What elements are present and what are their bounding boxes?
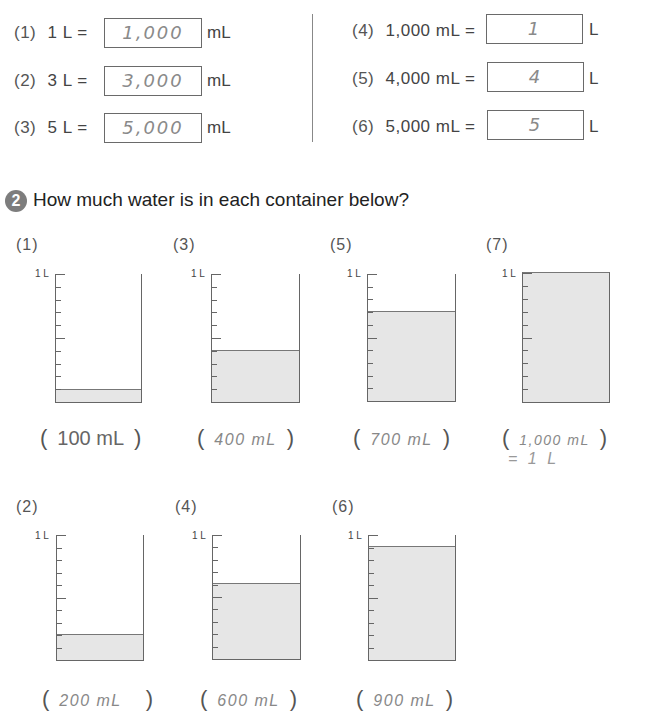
- scale-tick: [368, 287, 373, 288]
- scale-tick: [56, 312, 61, 313]
- scale-tick: [523, 389, 528, 390]
- scale-tick: [523, 325, 528, 326]
- scale-tick: [368, 388, 373, 389]
- answer-1[interactable]: (100 mL): [40, 425, 141, 451]
- scale-tick: [212, 287, 217, 288]
- conversion-item-1: (1) 1 L =: [14, 23, 88, 43]
- scale-tick: [57, 648, 62, 649]
- answer-box-5[interactable]: 4: [487, 62, 584, 92]
- answer-6[interactable]: (900 mL): [356, 686, 453, 712]
- item-number: (6): [352, 117, 374, 136]
- scale-tick: [56, 389, 61, 390]
- conversion-item-2: (2) 3 L =: [14, 71, 88, 91]
- scale-tick: [213, 597, 222, 598]
- unit-label: L: [589, 117, 598, 137]
- equation-lhs: 1,000 mL =: [386, 21, 476, 40]
- container-label: (7): [486, 236, 509, 254]
- item-number: (5): [352, 69, 374, 88]
- beaker-6: [368, 535, 456, 661]
- question-heading: How much water is in each container belo…: [33, 189, 409, 211]
- answer-box-3[interactable]: 5,000: [104, 113, 202, 143]
- answer-value: 200 mL: [59, 692, 121, 709]
- conversion-item-6: (6) 5,000 mL =: [352, 117, 475, 137]
- question-number-badge: 2: [5, 190, 27, 212]
- answer-5[interactable]: (700 mL): [353, 425, 450, 451]
- answer-value: 100 mL: [57, 427, 124, 449]
- scale-tick: [368, 312, 373, 313]
- equation-lhs: 5,000 mL =: [386, 117, 476, 136]
- scale-tick: [523, 376, 528, 377]
- unit-label: mL: [207, 118, 231, 138]
- scale-tick: [369, 560, 374, 561]
- scale-tick: [212, 325, 217, 326]
- column-divider: [312, 14, 313, 142]
- container-label: (4): [175, 498, 198, 516]
- answer-4[interactable]: (600 mL): [200, 686, 297, 712]
- scale-tick: [369, 610, 374, 611]
- equation-lhs: 1 L =: [48, 23, 88, 42]
- answer-note: = 1 L: [508, 450, 559, 468]
- scale-tick: [213, 585, 218, 586]
- scale-tick: [56, 338, 65, 339]
- scale-tick: [57, 623, 62, 624]
- conversion-item-3: (3) 5 L =: [14, 118, 88, 138]
- answer-value: 1,000 mL: [519, 432, 589, 448]
- water-level: [523, 273, 609, 402]
- answer-value: 5: [488, 114, 583, 135]
- container-label: (6): [332, 498, 355, 516]
- scale-tick: [212, 376, 217, 377]
- scale-tick: [56, 376, 61, 377]
- container-label: (1): [16, 236, 39, 254]
- beaker-4: [212, 535, 301, 660]
- scale-tick: [368, 274, 377, 275]
- scale-tick: [56, 325, 61, 326]
- answer-value: 400 mL: [214, 431, 276, 448]
- answer-box-1[interactable]: 1,000: [104, 18, 202, 48]
- beaker-1: [55, 274, 142, 403]
- scale-tick: [212, 312, 217, 313]
- equation-lhs: 4,000 mL =: [386, 69, 476, 88]
- scale-label: 1 L: [502, 268, 516, 279]
- answer-value: 3,000: [105, 70, 201, 91]
- answer-box-2[interactable]: 3,000: [104, 66, 202, 96]
- scale-tick: [212, 364, 217, 365]
- answer-value: 600 mL: [217, 692, 279, 709]
- unit-label: mL: [207, 71, 231, 91]
- water-level: [57, 634, 143, 660]
- scale-tick: [56, 300, 61, 301]
- scale-tick: [213, 572, 218, 573]
- unit-label: mL: [207, 23, 231, 43]
- scale-tick: [212, 351, 217, 352]
- scale-label: 1 L: [35, 530, 49, 541]
- scale-label: 1 L: [191, 268, 205, 279]
- answer-value: 4: [488, 66, 583, 87]
- answer-value: 1: [487, 18, 582, 39]
- answer-value: 900 mL: [373, 692, 435, 709]
- scale-tick: [369, 648, 374, 649]
- scale-tick: [56, 351, 61, 352]
- scale-tick: [213, 560, 218, 561]
- answer-box-4[interactable]: 1: [486, 14, 583, 44]
- beaker-3: [211, 274, 300, 403]
- scale-tick: [213, 609, 218, 610]
- scale-tick: [369, 598, 378, 599]
- answer-7[interactable]: (1,000 mL): [502, 425, 607, 451]
- scale-tick: [369, 535, 378, 536]
- scale-tick: [212, 274, 221, 275]
- scale-tick: [213, 647, 218, 648]
- scale-label: 1 L: [347, 268, 361, 279]
- scale-tick: [369, 548, 374, 549]
- scale-tick: [523, 350, 528, 351]
- answer-box-6[interactable]: 5: [487, 110, 584, 140]
- scale-tick: [368, 350, 373, 351]
- answer-3[interactable]: (400 mL): [197, 425, 294, 451]
- scale-tick: [212, 300, 217, 301]
- container-label: (3): [173, 236, 196, 254]
- item-number: (2): [14, 71, 36, 90]
- unit-label: L: [589, 20, 598, 40]
- scale-tick: [368, 325, 373, 326]
- item-number: (4): [352, 21, 374, 40]
- scale-tick: [57, 560, 62, 561]
- scale-tick: [368, 363, 373, 364]
- answer-2[interactable]: (200 mL): [42, 686, 153, 712]
